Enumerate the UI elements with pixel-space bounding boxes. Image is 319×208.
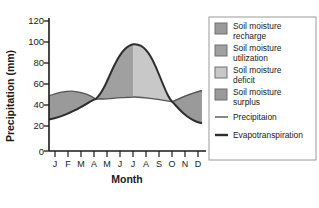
y-tick-label: 60	[33, 78, 44, 89]
legend-label-evapotranspiration: Evapotranspiration	[233, 130, 303, 140]
x-tick-label-jan: J	[53, 159, 58, 169]
legend-label-utilization-line1: Soil moisture	[233, 43, 282, 53]
x-tick-label-may: M	[103, 159, 111, 169]
y-tick-label: 80	[33, 57, 44, 68]
legend-label-precipitation: Precipitaion	[233, 112, 277, 122]
y-axis-title: Precipitation (mm)	[4, 50, 16, 142]
y-tick-label: 0	[39, 146, 44, 157]
legend-label-surplus-line1: Soil moisture	[233, 87, 282, 97]
y-tick-label: 40	[33, 99, 44, 110]
x-tick-label-apr: A	[91, 159, 97, 169]
x-axis-title: Month	[111, 173, 143, 185]
x-tick-label-aug: A	[143, 159, 149, 169]
x-tick-label-mar: M	[77, 159, 85, 169]
x-tick-label-jul: J	[131, 159, 136, 169]
soil-moisture-budget-chart: Precipitation (mm) 120 100 80 60 40 20 0	[0, 0, 319, 208]
chart-legend: Soil moisture recharge Soil moisture uti…	[209, 17, 316, 160]
legend-label-deficit-line1: Soil moisture	[233, 65, 282, 75]
legend-swatch-surplus	[215, 89, 227, 100]
x-tick-label-nov: N	[182, 159, 189, 169]
legend-label-surplus-line2: surplus	[233, 97, 260, 107]
x-tick-label-sep: S	[156, 159, 162, 169]
x-tick-label-jun: J	[118, 159, 123, 169]
x-tick-label-feb: F	[65, 159, 71, 169]
y-tick-label: 120	[28, 15, 44, 26]
y-tick-label: 20	[33, 120, 44, 131]
legend-label-utilization-line2: utilization	[233, 53, 268, 63]
legend-swatch-utilization	[215, 45, 227, 56]
x-tick-label-oct: O	[168, 159, 175, 169]
legend-swatch-deficit	[215, 67, 227, 78]
legend-label-deficit-line2: deficit	[233, 75, 256, 85]
legend-label-recharge-line2: recharge	[233, 31, 266, 41]
x-tick-label-dec: D	[195, 159, 202, 169]
legend-label-recharge-line1: Soil moisture	[233, 21, 282, 31]
legend-swatch-recharge	[215, 23, 227, 34]
y-tick-label: 100	[28, 36, 44, 47]
